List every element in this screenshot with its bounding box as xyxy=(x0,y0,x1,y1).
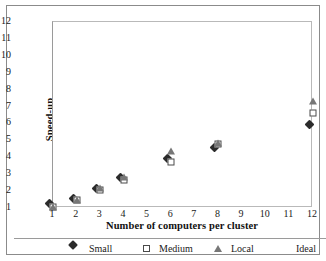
chart-figure: Speed-up 123456789101112 123456789101112… xyxy=(0,0,326,261)
data-point xyxy=(97,188,104,195)
x-tick-label: 3 xyxy=(88,209,110,219)
legend-label: Local xyxy=(231,243,254,254)
y-tick-label: 9 xyxy=(0,67,11,77)
square-marker-icon xyxy=(97,187,104,194)
x-tick-label: 12 xyxy=(301,209,323,219)
data-point xyxy=(310,110,317,117)
data-point xyxy=(73,196,81,203)
diamond-marker-icon xyxy=(68,194,78,204)
legend-label: Small xyxy=(89,243,112,254)
legend-marker xyxy=(69,243,83,255)
triangle-marker-icon xyxy=(214,139,222,146)
y-tick-label: 7 xyxy=(0,101,11,111)
x-tick-label: 9 xyxy=(230,209,252,219)
y-tick-label: 10 xyxy=(0,50,11,60)
diamond-marker-icon xyxy=(210,143,220,153)
legend-item-local[interactable]: Local xyxy=(211,243,254,255)
x-tick-label: 7 xyxy=(183,209,205,219)
no-marker-icon xyxy=(283,248,284,249)
data-point xyxy=(310,124,317,131)
data-point xyxy=(96,184,104,191)
square-marker-icon xyxy=(120,177,127,184)
y-tick-label: 11 xyxy=(0,33,11,43)
legend-marker xyxy=(211,243,225,255)
triangle-marker-icon xyxy=(214,245,222,252)
diamond-marker-icon xyxy=(68,240,78,250)
figure-frame: Speed-up 123456789101112 123456789101112… xyxy=(6,5,320,255)
y-tick-label: 12 xyxy=(0,16,11,26)
x-tick-label: 2 xyxy=(65,209,87,219)
y-tick-label: 6 xyxy=(0,117,11,127)
x-tick-label: 5 xyxy=(136,209,158,219)
triangle-marker-icon xyxy=(167,148,175,155)
legend-item-small[interactable]: Small xyxy=(69,243,112,255)
legend-item-ideal[interactable]: Ideal xyxy=(276,243,316,255)
y-tick-label: 1 xyxy=(0,202,11,212)
data-point xyxy=(120,177,127,184)
data-point xyxy=(120,173,128,180)
data-point xyxy=(120,177,127,184)
x-tick-label: 8 xyxy=(206,209,228,219)
diamond-marker-icon xyxy=(115,172,125,182)
x-axis-label: Number of computers per cluster xyxy=(52,220,312,231)
legend-marker xyxy=(276,243,290,255)
diamond-marker-icon xyxy=(163,154,173,164)
triangle-marker-icon xyxy=(73,196,81,203)
square-marker-icon xyxy=(310,110,317,117)
y-tick-label: 4 xyxy=(0,151,11,161)
x-tick-label: 10 xyxy=(254,209,276,219)
data-point xyxy=(73,197,80,204)
legend-item-medium[interactable]: Medium xyxy=(139,243,193,255)
diamond-marker-icon xyxy=(92,183,102,193)
square-marker-icon xyxy=(143,245,150,252)
y-tick-label: 2 xyxy=(0,185,11,195)
square-marker-icon xyxy=(73,197,80,204)
y-tick-label: 3 xyxy=(0,168,11,178)
data-point xyxy=(73,199,80,206)
plot-area xyxy=(52,21,312,207)
x-tick-label: 11 xyxy=(277,209,299,219)
data-point xyxy=(215,148,222,155)
legend-marker xyxy=(139,243,153,255)
data-point xyxy=(97,187,104,194)
legend-label: Ideal xyxy=(296,243,316,254)
triangle-marker-icon xyxy=(309,98,317,105)
triangle-marker-icon xyxy=(120,173,128,180)
y-tick-label: 8 xyxy=(0,84,11,94)
triangle-marker-icon xyxy=(96,184,104,191)
legend-label: Medium xyxy=(159,243,193,254)
data-point xyxy=(168,158,175,165)
square-marker-icon xyxy=(215,140,222,147)
data-point xyxy=(168,159,175,166)
x-tick-label: 4 xyxy=(112,209,134,219)
chart-legend: SmallMediumLocalIdeal xyxy=(14,238,326,258)
data-points-layer xyxy=(53,22,311,206)
square-marker-icon xyxy=(168,158,175,165)
y-tick-label: 5 xyxy=(0,134,11,144)
data-point xyxy=(167,148,175,155)
x-tick-label: 6 xyxy=(159,209,181,219)
data-point xyxy=(215,140,222,147)
data-point xyxy=(309,98,317,105)
x-tick-label: 1 xyxy=(41,209,63,219)
data-point xyxy=(214,139,222,146)
diamond-marker-icon xyxy=(305,119,315,129)
